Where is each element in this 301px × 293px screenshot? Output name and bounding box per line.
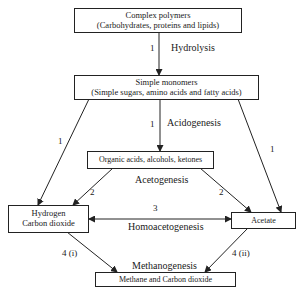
node-simple-monomers: Simple monomers (Simple sugars, amino ac… bbox=[74, 75, 259, 100]
step-label-monomers-to-acetate: 1 bbox=[270, 145, 275, 154]
arrow-acids-to-acetate bbox=[200, 168, 251, 212]
node-methane-co2: Methane and Carbon dioxide bbox=[95, 272, 236, 287]
arrow-monomers-to-acetate bbox=[238, 99, 281, 212]
step-label-homoacetogenesis: 3 bbox=[153, 204, 158, 213]
node-organic-acids: Organic acids, alcohols, ketones bbox=[87, 151, 214, 169]
node-organic-acids-title: Organic acids, alcohols, ketones bbox=[99, 155, 202, 164]
step-label-monomers-to-hydrogen: 1 bbox=[58, 137, 63, 146]
node-hydrogen-co2: Hydrogen Carbon dioxide bbox=[8, 205, 89, 233]
label-acetogenesis: Acetogenesis bbox=[135, 175, 188, 185]
label-acidogenesis: Acidogenesis bbox=[167, 118, 221, 128]
arrow-monomers-to-hydrogen bbox=[38, 99, 89, 205]
label-hydrolysis: Hydrolysis bbox=[171, 43, 215, 53]
step-label-acids-to-acetate: 2 bbox=[219, 188, 224, 197]
label-homoacetogenesis: Homoacetogenesis bbox=[128, 222, 204, 232]
step-label-hydrogen-to-methane: 4 (i) bbox=[62, 249, 77, 258]
node-methane-title: Methane and Carbon dioxide bbox=[119, 275, 212, 284]
node-complex-polymers-subtitle: (Carbohydrates, proteins and lipids) bbox=[97, 21, 219, 31]
step-label-acidogenesis: 1 bbox=[150, 120, 155, 129]
step-label-acids-to-hydrogen: 2 bbox=[90, 188, 95, 197]
node-acetate: Acetate bbox=[231, 212, 296, 229]
step-label-acetate-to-methane: 4 (ii) bbox=[232, 249, 250, 258]
node-co2-title: Carbon dioxide bbox=[22, 219, 75, 229]
label-methanogenesis: Methanogenesis bbox=[132, 261, 197, 271]
node-complex-polymers: Complex polymers (Carbohydrates, protein… bbox=[74, 8, 242, 33]
node-simple-monomers-subtitle: (Simple sugars, amino acids and fatty ac… bbox=[91, 88, 241, 98]
step-label-hydrolysis: 1 bbox=[150, 44, 155, 53]
node-acetate-title: Acetate bbox=[251, 216, 275, 225]
